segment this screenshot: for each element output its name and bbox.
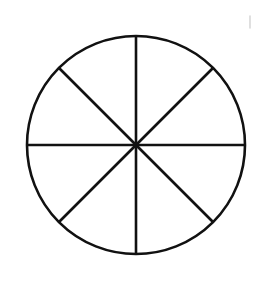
- circle-eighths-diagram: [0, 0, 260, 281]
- figure-canvas: [0, 0, 260, 281]
